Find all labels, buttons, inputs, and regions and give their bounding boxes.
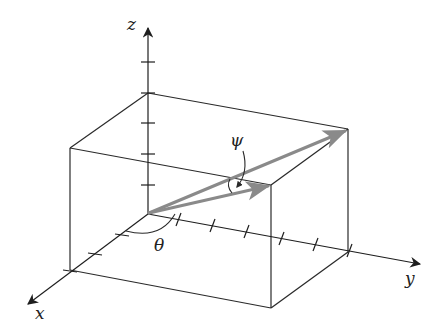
box-edge-top-front (70, 148, 271, 185)
axes (28, 28, 420, 304)
psi-pointer (237, 151, 245, 187)
y-axis (148, 214, 420, 264)
diagram-canvas: z y x θ ψ (0, 0, 444, 331)
diagonal-vector (149, 131, 345, 213)
diagram-svg (0, 0, 444, 331)
x-axis-label: x (35, 305, 45, 322)
theta-label: θ (154, 237, 164, 254)
psi-arc (228, 179, 232, 193)
z-axis-label: z (127, 16, 136, 33)
theta-arc (126, 214, 175, 233)
box-edge-bottom-front (70, 270, 271, 308)
box-edge-bottom-right (271, 252, 348, 308)
vectors (149, 131, 345, 213)
y-axis-label: y (405, 270, 415, 287)
x-axis (28, 214, 148, 304)
face-vector (149, 186, 268, 213)
box-edge-top-back (148, 93, 348, 129)
box-edge-top-left (70, 93, 148, 148)
psi-label: ψ (230, 132, 243, 149)
